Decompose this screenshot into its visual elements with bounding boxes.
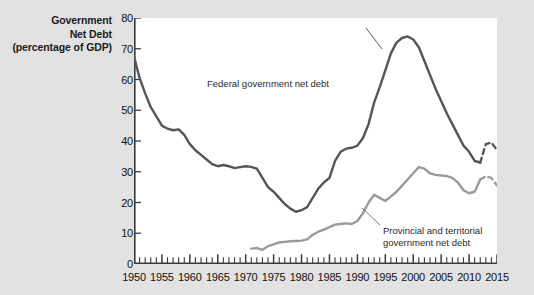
top-edge-strip <box>0 0 534 5</box>
provincial-series-label: Provincial and territorial government ne… <box>383 225 482 248</box>
y-tick-label-60: 60 <box>107 74 133 86</box>
y-tick-label-10: 10 <box>107 227 133 239</box>
federal-leader-line <box>366 28 382 49</box>
chart-title: Government Net Debt (percentage of GDP) <box>0 14 112 55</box>
x-axis-ticks <box>134 254 497 263</box>
provincial-series-label-line-1: Provincial and territorial <box>383 225 482 237</box>
y-tick-label-70: 70 <box>107 43 133 55</box>
chart-title-line-3: (percentage of GDP) <box>0 41 112 55</box>
data-series-group <box>134 36 497 249</box>
y-tick-label-80: 80 <box>107 12 133 24</box>
federal-series-label: Federal government net debt <box>207 78 329 90</box>
series-line-0 <box>134 36 480 211</box>
series-line-projected-1 <box>480 176 497 185</box>
y-tick-label-30: 30 <box>107 166 133 178</box>
chart-title-line-1: Government <box>0 14 112 28</box>
y-tick-label-50: 50 <box>107 104 133 116</box>
y-tick-label-40: 40 <box>107 135 133 147</box>
x-tick-label-2015: 2015 <box>480 271 514 283</box>
y-axis-ticks <box>135 18 141 264</box>
series-line-projected-0 <box>480 143 497 163</box>
chart-figure: Government Net Debt (percentage of GDP) … <box>0 0 534 295</box>
y-tick-label-0: 0 <box>107 258 133 270</box>
provincial-series-label-line-2: government net debt <box>383 237 482 249</box>
provincial-leader-line <box>362 208 380 225</box>
chart-title-line-2: Net Debt <box>0 28 112 42</box>
y-tick-label-20: 20 <box>107 197 133 209</box>
